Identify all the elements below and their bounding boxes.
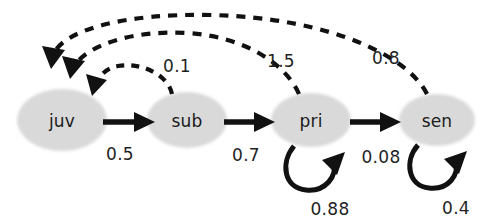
edge-weight-pri-pri: 0.88	[310, 199, 349, 219]
diagram-canvas: juv sub pri sen 0.5 0.7 0.08 0.88 0.4 0.…	[0, 0, 491, 224]
edge-weight-pri-juv: 1.5	[267, 51, 295, 71]
edge-weight-pri-sen: 0.08	[361, 147, 400, 167]
node-label-sen: sen	[422, 111, 453, 131]
edge-weight-sub-juv: 0.1	[163, 56, 191, 76]
node-label-pri: pri	[299, 111, 322, 131]
edge-weight-sen-juv: 0.8	[372, 48, 400, 68]
edge-weight-sub-pri: 0.7	[232, 145, 260, 165]
edge-weight-sen-sen: 0.4	[442, 198, 470, 218]
node-label-juv: juv	[49, 111, 75, 131]
node-label-sub: sub	[171, 111, 202, 131]
edge-sub-juv	[86, 65, 172, 96]
edge-weight-juv-sub: 0.5	[106, 144, 134, 164]
